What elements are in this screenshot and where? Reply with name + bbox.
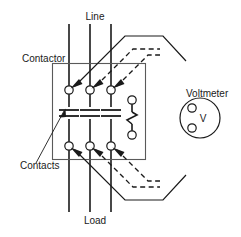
diagram-canvas: V Line Load Contactor Contacts Voltmeter bbox=[0, 0, 241, 237]
auxiliary-contact-top-terminal bbox=[128, 96, 136, 104]
auxiliary-contact-zigzag bbox=[127, 112, 137, 124]
lower-arrowhead-pole-2 bbox=[92, 148, 104, 158]
upper-dashed-lead-to-pole-3 bbox=[117, 55, 160, 86]
pole-3-contact-assembly bbox=[101, 86, 121, 150]
pole-conductors bbox=[69, 24, 111, 212]
auxiliary-contact-bottom-terminal bbox=[128, 131, 136, 139]
label-line: Line bbox=[86, 11, 105, 22]
voltmeter-v-glyph: V bbox=[200, 113, 207, 124]
upper-arrowhead-pole-3 bbox=[113, 79, 125, 89]
upper-probe-lead-harness bbox=[71, 36, 187, 89]
label-contactor: Contactor bbox=[22, 53, 66, 64]
upper-arrowhead-pole-2 bbox=[92, 79, 104, 89]
label-load: Load bbox=[84, 215, 106, 226]
lower-arrowhead-pole-3 bbox=[113, 148, 125, 158]
pole-1-contact-assembly bbox=[59, 86, 79, 150]
label-voltmeter: Voltmeter bbox=[186, 88, 229, 99]
lower-dashed-lead-to-pole-3 bbox=[117, 150, 160, 181]
contactor-voltmeter-diagram: V Line Load Contactor Contacts Voltmeter bbox=[0, 0, 241, 237]
label-contacts: Contacts bbox=[20, 160, 59, 171]
voltmeter-positive-terminal bbox=[188, 104, 196, 112]
auxiliary-contact-assembly bbox=[127, 96, 137, 139]
pole-2-contact-assembly bbox=[80, 86, 100, 150]
lower-probe-lead-harness bbox=[71, 148, 187, 201]
voltmeter-symbol: V bbox=[180, 98, 220, 138]
contacts-leader-line bbox=[36, 111, 64, 163]
contacts-leader bbox=[36, 109, 66, 164]
upper-solid-lead-to-pole-1 bbox=[75, 36, 186, 86]
voltmeter-negative-terminal bbox=[188, 124, 196, 132]
lower-solid-lead-to-pole-1 bbox=[75, 150, 186, 200]
